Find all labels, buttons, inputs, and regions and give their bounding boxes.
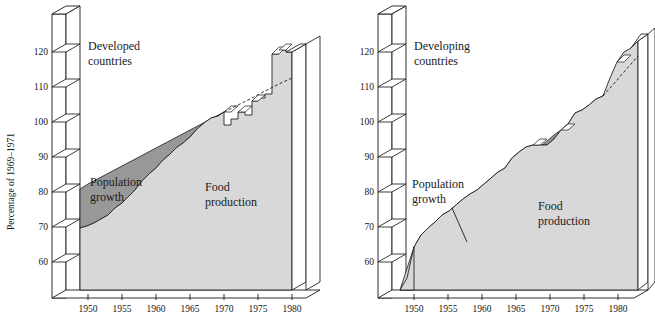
- panel-title-right-line2: countries: [414, 54, 458, 68]
- series-food-production-right: [400, 34, 648, 290]
- y-tick-100: 100: [34, 117, 49, 127]
- y-axis-title: Percentage of 1969–1971: [6, 133, 16, 230]
- y-tick-110: 110: [34, 82, 48, 92]
- y-tick-70-right: 70: [365, 222, 375, 232]
- y-tick-110-right: 110: [360, 82, 374, 92]
- x-tick-1950-right: 1950: [405, 304, 424, 314]
- x-tick-1970: 1970: [215, 304, 234, 314]
- x-tick-labels-left: 1950 1955 1960 1965 1970 1975 1980: [79, 304, 302, 314]
- chart-svg: Percentage of 1969–1971: [0, 0, 655, 322]
- x-tick-1950: 1950: [79, 304, 98, 314]
- y-tick-labels: 120 110 100 90 80 70 60: [34, 47, 49, 267]
- x-tick-labels-right: 1950 1955 1960 1965 1970 1975 1980: [405, 304, 628, 314]
- food-production-label-line2: production: [205, 195, 257, 209]
- x-tick-1960: 1960: [147, 304, 166, 314]
- x-tick-1975-right: 1975: [575, 304, 594, 314]
- right-rail-right-panel: [648, 28, 655, 290]
- panel-developed: Percentage of 1969–1971: [6, 6, 320, 314]
- panel-title-right-line1: Developing: [414, 39, 470, 53]
- x-axis-floor: [52, 290, 320, 298]
- food-production-label-right-line1: Food: [538, 199, 563, 213]
- population-growth-label-line1: Population: [90, 175, 142, 189]
- x-tick-1980-right: 1980: [609, 304, 628, 314]
- population-growth-label-right-line1: Population: [412, 177, 464, 191]
- x-tick-1980: 1980: [283, 304, 302, 314]
- y-tick-80-right: 80: [365, 187, 375, 197]
- y-tick-90-right: 90: [365, 152, 375, 162]
- right-rail-left-panel: [306, 36, 320, 290]
- y-tick-60: 60: [39, 257, 49, 267]
- x-axis-floor-right: [378, 290, 648, 298]
- x-tick-1965-right: 1965: [507, 304, 526, 314]
- food-production-label-right-line2: production: [538, 214, 590, 228]
- y-tick-120-right: 120: [360, 47, 375, 57]
- y-tick-70: 70: [39, 222, 49, 232]
- panel-title-developing: Developing countries: [414, 39, 470, 68]
- x-tick-1970-right: 1970: [541, 304, 560, 314]
- x-tick-1965: 1965: [181, 304, 200, 314]
- population-growth-label-right-line2: growth: [412, 192, 446, 206]
- series-food-production-left: [80, 44, 306, 290]
- figure-root: Percentage of 1969–1971: [0, 0, 655, 322]
- x-tick-1960-right: 1960: [473, 304, 492, 314]
- food-production-label-line1: Food: [205, 180, 230, 194]
- x-tick-1955-right: 1955: [439, 304, 458, 314]
- panel-developing: 120 110 100 90 80 70 60: [360, 6, 655, 314]
- x-tick-1955: 1955: [113, 304, 132, 314]
- panel-title-line2: countries: [88, 54, 132, 68]
- panel-title-line1: Developed: [88, 39, 140, 53]
- y-tick-labels-right: 120 110 100 90 80 70 60: [360, 47, 375, 267]
- y-tick-80: 80: [39, 187, 49, 197]
- panel-title-developed: Developed countries: [88, 39, 140, 68]
- x-tick-1975: 1975: [249, 304, 268, 314]
- y-tick-100-right: 100: [360, 117, 375, 127]
- y-tick-60-right: 60: [365, 257, 375, 267]
- y-tick-90: 90: [39, 152, 49, 162]
- y-tick-120: 120: [34, 47, 49, 57]
- population-growth-label-line2: growth: [90, 190, 124, 204]
